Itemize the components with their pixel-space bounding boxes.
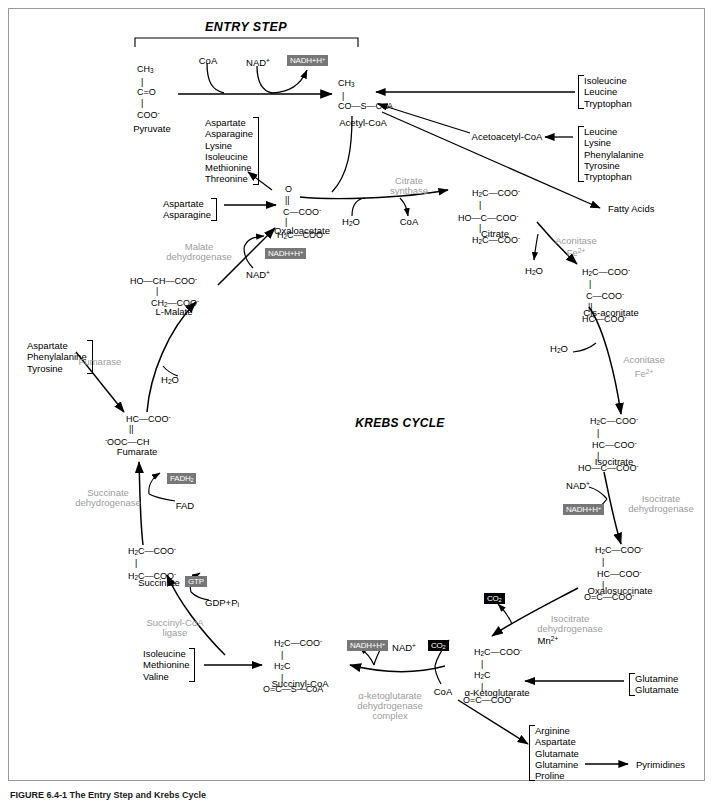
fatty-acids-label: Fatty Acids <box>608 203 654 214</box>
succinyl-coa-label: Succinyl-CoA <box>271 678 328 689</box>
manganese-cofactor-label: Mn2+ <box>538 633 559 646</box>
aa-item: Leucine <box>584 126 644 137</box>
amino-acid-group-to-succinyl-coa: Isoleucine Methionine Valine <box>143 648 189 682</box>
aconitase-enzyme-2-name: Aconitase <box>623 354 665 365</box>
aa-item: Isoleucine <box>584 75 632 86</box>
coa-label-akgdh: CoA <box>434 686 452 697</box>
aa-item: Lysine <box>205 140 253 151</box>
nad-label-icdh: NAD+ <box>566 478 590 491</box>
icdh-enzyme-1-line2: dehydrogenase <box>628 503 694 514</box>
water-label-fumarase: H2O <box>161 374 179 387</box>
fumarase-enzyme-label: Fumarase <box>79 356 122 367</box>
gdp-pi-label: GDP+Pi <box>205 597 239 610</box>
aa-item: Tryptophan <box>584 98 632 109</box>
acetoacetyl-coa-label: Acetoacetyl-CoA <box>472 131 543 142</box>
amino-acid-group-from-alpha-ketoglutarate: Arginine Aspartate Glutamate Glutamine P… <box>535 725 579 781</box>
co2-badge-icdh2: CO2 <box>484 593 505 604</box>
aa-item: Isoleucine <box>205 151 253 162</box>
fadh2-badge: FADH2 <box>167 473 196 484</box>
oxalosuccinate-label: Oxalosuccinate <box>588 585 653 596</box>
amino-acid-group-to-alpha-ketoglutarate: Glutamine Glutamate <box>635 673 679 696</box>
aa-item: Glutamate <box>635 684 679 695</box>
aconitase-enzyme-2-cofactor: Fe2+ <box>635 366 654 379</box>
aa-item: Glutamine <box>535 759 579 770</box>
aa-item: Tryptophan <box>584 171 644 182</box>
acetyl-coa-structure: CH3 | CO—S—CoA <box>338 78 393 112</box>
aa-item: Asparagine <box>163 209 211 220</box>
cis-aconitate-label: Cis-aconitate <box>583 307 638 318</box>
aa-item: Isoleucine <box>143 648 189 659</box>
fad-label: FAD <box>176 500 194 511</box>
aa-item: Aspartate <box>205 117 253 128</box>
aconitase-enzyme-1-cofactor: Fe2+ <box>567 245 586 258</box>
l-malate-label: L-Malate <box>156 306 193 317</box>
nad-label-akgdh: NAD+ <box>392 640 416 653</box>
pyrimidines-label: Pyrimidines <box>636 759 685 770</box>
nadh-badge-icdh: NADH+H+ <box>563 504 604 515</box>
entry-step-title: ENTRY STEP <box>205 22 287 33</box>
isocitrate-label: Isocitrate <box>595 456 634 467</box>
figure-caption: FIGURE 6.4-1 The Entry Step and Krebs Cy… <box>10 790 206 800</box>
succinate-label: Succinate <box>138 577 180 588</box>
aa-item: Tyrosine <box>584 160 644 171</box>
succinate-dehydrogenase-line2: dehydrogenase <box>75 497 141 508</box>
fumarate-label: Fumarate <box>117 446 158 457</box>
akgdh-enzyme-line3: complex <box>372 710 407 721</box>
co2-badge-akgdh: CO2 <box>428 640 449 651</box>
aa-item: Methionine <box>143 659 189 670</box>
figure-canvas: ENTRY STEP KREBS CYCLE CH3 | C=O | COO- … <box>0 0 713 808</box>
coa-label-citrate-synthase: CoA <box>400 216 418 227</box>
aa-item: Phenylalanine <box>584 149 644 160</box>
succinyl-coa-ligase-line2: ligase <box>163 627 188 638</box>
nad-label-mdh: NAD+ <box>246 267 270 280</box>
amino-acid-group-to-acetoacetyl-coa: Leucine Lysine Phenylalanine Tyrosine Tr… <box>584 126 644 182</box>
aa-item: Proline <box>535 770 579 781</box>
malate-dehydrogenase-line2: dehydrogenase <box>166 251 232 262</box>
aa-item: Lysine <box>584 137 644 148</box>
aa-item: Glutamine <box>635 673 679 684</box>
alpha-ketoglutarate-label: α-Ketoglutarate <box>464 687 529 698</box>
water-label-aconitase-2: H2O <box>550 343 568 356</box>
aa-item: Aspartate <box>535 736 579 747</box>
aa-item: Aspartate <box>27 340 87 351</box>
citrate-synthase-enzyme-line2: synthase <box>390 185 428 196</box>
fumarate-structure: HC—COO- || -OOC—CH <box>105 412 171 447</box>
pyruvate-label: Pyruvate <box>133 123 171 134</box>
amino-acid-group-to-acetyl-coa: Isoleucine Leucine Tryptophan <box>584 75 632 109</box>
aa-item: Methionine <box>205 162 253 173</box>
coa-label-entry: CoA <box>199 55 217 66</box>
amino-acid-group-to-oxaloacetate: Aspartate Asparagine <box>163 198 211 221</box>
aa-item: Aspartate <box>163 198 211 209</box>
water-label-aconitase-1: H2O <box>525 265 543 278</box>
aa-item: Valine <box>143 671 189 682</box>
water-label-citrate-synthase: H2O <box>342 216 360 229</box>
aa-item: Asparagine <box>205 128 253 139</box>
gtp-badge: GTP <box>185 576 207 587</box>
aa-item: Glutamate <box>535 748 579 759</box>
acetyl-coa-label: Acetyl-CoA <box>339 117 387 128</box>
nadh-badge-akgdh: NADH+H+ <box>347 640 388 651</box>
oxaloacetate-label: Oxaloacetate <box>274 225 330 236</box>
aa-item: Leucine <box>584 86 632 97</box>
pyruvate-structure: CH3 | C=O | COO- <box>137 64 160 120</box>
aa-item: Threonine <box>205 173 253 184</box>
nad-label-entry: NAD+ <box>246 55 270 68</box>
krebs-cycle-title: KREBS CYCLE <box>355 418 444 429</box>
aa-item: Arginine <box>535 725 579 736</box>
nadh-badge-mdh: NADH+H+ <box>265 248 306 259</box>
citrate-label: Citrate <box>481 228 509 239</box>
amino-acid-group-from-oxaloacetate: Aspartate Asparagine Lysine Isoleucine M… <box>205 117 253 185</box>
nadh-badge-entry: NADH+H+ <box>287 55 328 66</box>
